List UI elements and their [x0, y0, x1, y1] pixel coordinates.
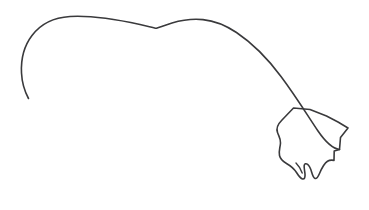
line-drawing: Minimalist line drawing of an animal bac…: [0, 0, 369, 210]
drawing-canvas: Minimalist line drawing of an animal bac…: [0, 0, 369, 210]
canvas-background: [0, 0, 369, 210]
